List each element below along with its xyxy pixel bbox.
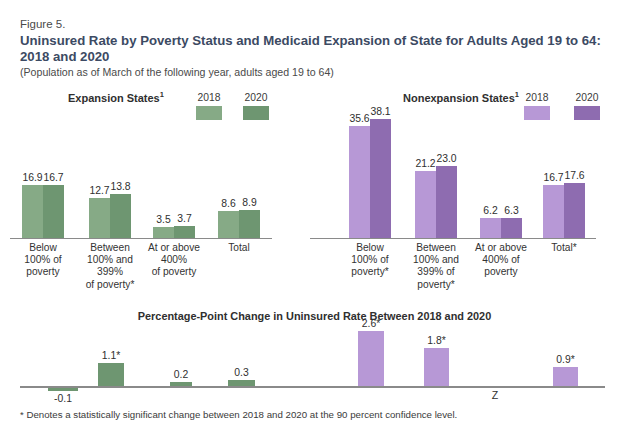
bar-value-label: 35.6	[349, 113, 369, 124]
panel-title-expansion-text: Expansion States	[68, 92, 160, 104]
change-bar-value-label: Z	[492, 389, 498, 401]
change-bar-value-label: 0.9*	[556, 354, 575, 365]
bar-value-label: 13.8	[110, 181, 130, 192]
x-axis-category-line: 400% of	[462, 254, 540, 266]
bar-value-label: 16.7	[43, 172, 63, 183]
panel-title-expansion: Expansion States1	[68, 90, 164, 104]
bar-2020-cat-3: 17.6	[564, 183, 585, 238]
bar-value-label: 6.2	[483, 205, 497, 216]
legend-label-2018: 2018	[186, 92, 232, 103]
change-bar-3: 0.3	[228, 380, 255, 386]
change-bar-value-label: 1.1*	[102, 350, 121, 361]
change-bar-value-label: 2.6*	[362, 318, 381, 329]
change-bar-5: 1.8*	[424, 348, 449, 386]
zero-axis-line	[20, 386, 605, 388]
x-axis-category-line: poverty	[462, 266, 540, 278]
x-axis-category-label: Total*	[525, 242, 603, 254]
bar-value-label: 38.1	[370, 106, 390, 117]
x-axis-line	[310, 238, 596, 240]
figure-title: Uninsured Rate by Poverty Status and Med…	[20, 33, 615, 64]
change-bar-1: 1.1*	[98, 363, 124, 386]
chart-percentage-point-change: -0.11.1*0.20.32.6*1.8*Z0.9*	[20, 330, 605, 388]
bar-2020-cat-2: 6.3	[501, 218, 522, 238]
bar-value-label: 16.9	[22, 172, 42, 183]
bar-value-label: 6.3	[504, 205, 518, 216]
bar-2018-cat-0: 16.9	[22, 185, 43, 238]
change-bar-4: 2.6*	[358, 331, 384, 386]
panel-title-change: Percentage-Point Change in Uninsured Rat…	[0, 310, 629, 322]
bar-value-label: 16.7	[543, 172, 563, 183]
chart-nonexpansion-states: 35.638.121.223.06.26.316.717.6	[310, 110, 596, 239]
change-bar-7: 0.9*	[553, 367, 578, 386]
change-bar-value-label: 0.3	[234, 367, 248, 378]
bar-2018-cat-1: 21.2	[415, 171, 436, 237]
change-bar-value-label: 0.2	[174, 369, 188, 380]
bar-2018-cat-3: 16.7	[543, 185, 564, 237]
x-axis-category-line: poverty*	[397, 279, 475, 291]
bar-value-label: 8.6	[221, 198, 235, 209]
figure-label: Figure 5.	[20, 18, 65, 30]
bar-2018-cat-2: 3.5	[153, 227, 174, 238]
bar-value-label: 17.6	[564, 170, 584, 181]
panel-title-nonexpansion: Nonexpansion States1	[403, 90, 519, 104]
change-bar-value-label: 1.8*	[427, 335, 446, 346]
bar-2020-cat-3: 8.9	[239, 210, 260, 238]
change-bar-2: 0.2	[170, 382, 192, 386]
legend-label-2020: 2020	[233, 92, 279, 103]
x-axis-category-line: Total*	[525, 242, 603, 254]
panel-title-nonexpansion-text: Nonexpansion States	[403, 92, 515, 104]
bar-2020-cat-1: 13.8	[110, 194, 131, 237]
x-axis-category-line: 400%	[135, 254, 213, 266]
bar-value-label: 21.2	[415, 158, 435, 169]
legend-label-2018: 2018	[514, 92, 560, 103]
x-axis-category-label: Total	[200, 242, 278, 254]
bar-value-label: 23.0	[436, 153, 456, 164]
change-bar-0: -0.1	[48, 388, 78, 391]
bar-2018-cat-3: 8.6	[218, 211, 239, 238]
panel-title-expansion-superscript: 1	[160, 90, 164, 99]
bar-2018-cat-2: 6.2	[480, 218, 501, 237]
change-bar-value-label: -0.1	[54, 393, 72, 404]
bar-2020-cat-1: 23.0	[436, 166, 457, 238]
bar-2020-cat-0: 38.1	[370, 119, 391, 238]
bar-2018-cat-1: 12.7	[89, 198, 110, 238]
x-axis-category-line: of poverty	[135, 266, 213, 278]
bar-value-label: 8.9	[242, 197, 256, 208]
chart-expansion-states: 16.916.712.713.83.53.78.68.9	[10, 110, 272, 239]
figure-subtitle: (Population as of March of the following…	[20, 66, 334, 78]
legend-label-2020: 2020	[564, 92, 610, 103]
bar-value-label: 12.7	[89, 185, 109, 196]
bar-value-label: 3.7	[177, 213, 191, 224]
figure-footnote: * Denotes a statistically significant ch…	[20, 409, 457, 420]
bar-2020-cat-2: 3.7	[174, 226, 195, 238]
bar-2018-cat-0: 35.6	[349, 126, 370, 237]
bar-2020-cat-0: 16.7	[43, 185, 64, 237]
bar-value-label: 3.5	[156, 214, 170, 225]
x-axis-category-line: Total	[200, 242, 278, 254]
x-axis-category-line: of poverty*	[71, 279, 149, 291]
x-axis-line	[10, 238, 272, 240]
